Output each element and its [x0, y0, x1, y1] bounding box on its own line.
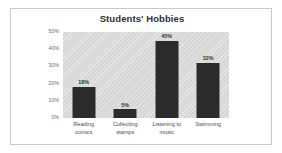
x-axis-category-label-line: Listening to	[146, 121, 188, 129]
x-axis-category-label-line: Reading	[63, 121, 105, 129]
y-axis-tick-label: 40%	[49, 47, 59, 52]
bar	[72, 87, 95, 118]
bar	[155, 41, 178, 118]
y-axis-tick-label: 20%	[49, 81, 59, 86]
y-axis-tick-label: 50%	[49, 29, 59, 34]
bar-group: 18%	[63, 32, 105, 118]
bar-value-label: 18%	[78, 80, 89, 85]
y-axis: 50%40%30%20%10%0%	[29, 32, 61, 118]
x-axis-category-label: Swimming	[188, 121, 230, 129]
bar-group: 45%	[146, 32, 188, 118]
x-axis-category-label: Listening tomusic	[146, 121, 188, 136]
y-axis-tick-label: 0%	[52, 115, 60, 120]
bar-group: 5%	[105, 32, 147, 118]
chart-title: Students' Hobbies	[11, 13, 273, 24]
bar	[114, 109, 137, 118]
x-axis-category-label: Collectingstamps	[105, 121, 147, 136]
bar-value-label: 32%	[203, 56, 214, 61]
x-axis-category-label-line: Swimming	[188, 121, 230, 129]
x-axis-category-label-line: music	[146, 129, 188, 137]
y-axis-tick-label: 30%	[49, 64, 59, 69]
bar	[197, 63, 220, 118]
x-axis-category-label: Readingcomics	[63, 121, 105, 136]
bar-value-label: 5%	[121, 103, 129, 108]
y-axis-tick-label: 10%	[49, 98, 59, 103]
bar-value-label: 45%	[161, 34, 172, 39]
x-axis-category-label-line: Collecting	[105, 121, 147, 129]
x-axis: ReadingcomicsCollectingstampsListening t…	[63, 121, 229, 145]
x-axis-category-label-line: comics	[63, 129, 105, 137]
bar-group: 32%	[188, 32, 230, 118]
bars-layer: 18%5%45%32%	[63, 32, 229, 118]
chart-frame: Students' Hobbies 50%40%30%20%10%0% 18%5…	[10, 8, 272, 145]
x-axis-category-label-line: stamps	[105, 129, 147, 137]
screenshot-canvas: Students' Hobbies 50%40%30%20%10%0% 18%5…	[0, 0, 282, 153]
